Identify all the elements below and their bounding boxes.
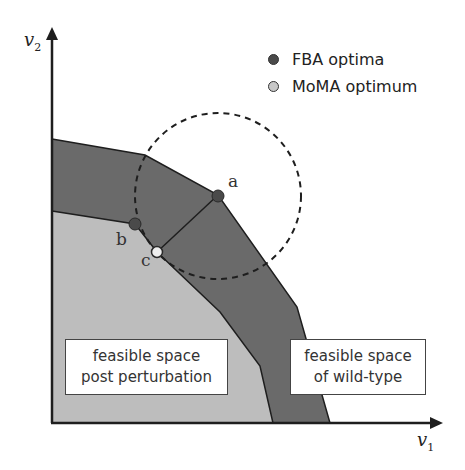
point-label-b: b: [116, 229, 127, 249]
legend-item-fba: FBA optima: [268, 46, 417, 73]
moma-diagram: v2 v1 a b c FBA optima MoMA optimum feas…: [0, 0, 465, 470]
perturbation-region-label: feasible space post perturbation: [65, 339, 228, 395]
fba-optimum-point-a: [212, 190, 224, 202]
legend-label-fba: FBA optima: [292, 50, 384, 69]
legend: FBA optima MoMA optimum: [268, 46, 417, 100]
legend-label-moma: MoMA optimum: [292, 77, 417, 96]
legend-item-moma: MoMA optimum: [268, 73, 417, 100]
point-label-c: c: [141, 250, 151, 270]
moma-optimum-point-c: [152, 247, 163, 258]
label-line-2: of wild-type: [291, 367, 425, 388]
x-axis-arrow-icon: [430, 417, 443, 429]
label-line-2: post perturbation: [66, 367, 227, 388]
point-label-a: a: [228, 171, 238, 191]
label-line-1: feasible space: [291, 346, 425, 367]
filled-circle-icon: [268, 54, 279, 65]
wild-type-region-label: feasible space of wild-type: [290, 339, 426, 395]
light-circle-icon: [268, 81, 279, 92]
fba-optimum-point-b: [129, 218, 141, 230]
label-line-1: feasible space: [66, 346, 227, 367]
y-axis-arrow-icon: [46, 27, 58, 40]
x-axis-label: v1: [417, 429, 434, 454]
y-axis-label: v2: [24, 29, 41, 54]
